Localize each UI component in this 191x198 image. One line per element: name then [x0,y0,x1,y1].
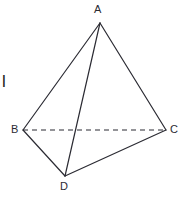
vertex-label-c: C [170,124,178,135]
vertex-label-d: D [60,181,68,192]
margin-mark: l [2,73,6,90]
edge-bd [23,130,65,176]
tetrahedron-figure: A B C D l [0,0,191,198]
tetrahedron-drawing [0,0,191,198]
edge-ac [100,23,166,130]
edge-ab [23,23,100,130]
vertex-label-a: A [94,4,101,15]
edge-dc [65,130,166,176]
vertex-label-b: B [11,124,18,135]
edge-ad [65,23,100,176]
